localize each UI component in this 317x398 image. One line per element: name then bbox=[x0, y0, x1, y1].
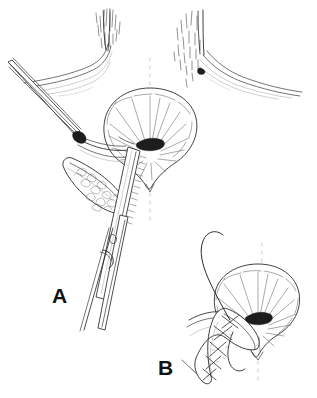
panel-a-label: A bbox=[52, 284, 67, 307]
figure-root: A bbox=[0, 0, 317, 398]
surgical-figure-svg: A bbox=[0, 0, 317, 398]
panel-b-label: B bbox=[158, 356, 173, 379]
